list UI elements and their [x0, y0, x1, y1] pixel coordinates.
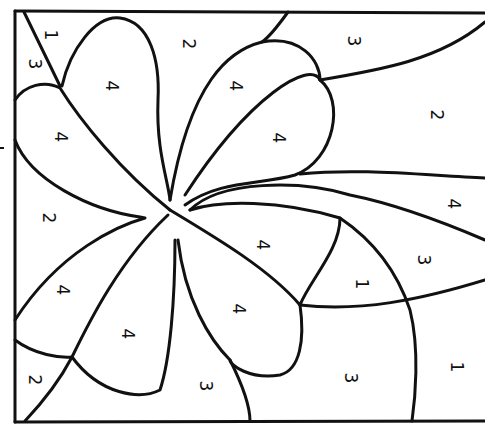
region-number-label: 2	[26, 375, 43, 386]
region-number-label: 3	[345, 36, 362, 47]
petal-left-lower	[15, 140, 145, 320]
frame-top	[15, 11, 485, 13]
region-number-label: 3	[26, 59, 43, 70]
petal-lower-right	[170, 210, 340, 305]
petal-top-left	[62, 18, 170, 200]
leaf-right-bottom	[300, 280, 485, 307]
region-number-label: 2	[180, 39, 197, 50]
petal-left	[15, 84, 170, 210]
region-number-label: 3	[342, 373, 359, 384]
region-number-label: 2	[428, 110, 445, 121]
region-number-label: 4	[103, 81, 120, 92]
region-number-label: 1	[42, 30, 59, 41]
line-art	[0, 0, 485, 425]
region-number-label: 4	[270, 133, 287, 144]
coloring-page: 134243424244341442331	[0, 0, 485, 425]
region-number-label: 1	[353, 279, 370, 290]
region-number-label: 4	[230, 304, 247, 315]
region-number-label: 4	[445, 199, 462, 210]
region-number-label: 2	[40, 213, 57, 224]
mid-curve	[300, 172, 485, 178]
region-number-label: 1	[448, 362, 465, 373]
leaf-right-lower	[190, 203, 416, 421]
stem-line	[24, 12, 60, 86]
region-number-label: 4	[254, 240, 271, 251]
petal-lower-left	[72, 215, 175, 394]
upper-curve	[320, 22, 485, 80]
region-number-label: 3	[197, 381, 214, 392]
region-number-label: 4	[54, 285, 71, 296]
region-number-label: 4	[119, 329, 136, 340]
region-number-label: 4	[52, 132, 69, 143]
region-number-label: 4	[227, 81, 244, 92]
margin-tick	[0, 147, 4, 149]
region-number-label: 3	[415, 255, 432, 266]
